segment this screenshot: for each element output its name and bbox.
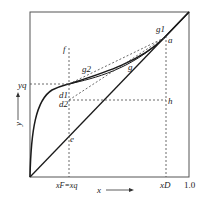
label-g2: g2	[82, 64, 92, 74]
y-arrowhead-icon	[16, 92, 20, 97]
label-e: e	[70, 134, 74, 144]
label-g1: g1	[156, 24, 165, 34]
label-1-0: 1.0	[184, 180, 196, 190]
label-a: a	[168, 35, 173, 45]
label-d2: d2	[59, 99, 69, 109]
y-axis-label: y	[13, 122, 23, 127]
mccabe-thiele-diagram: f g2 g g1 a d1 d2 h e yq xF=xq xD 1.0 x …	[0, 0, 209, 207]
x-arrowhead-icon	[129, 188, 134, 192]
label-f: f	[63, 44, 67, 54]
label-xf-xq: xF=xq	[55, 181, 77, 190]
a-d1-dashed	[69, 38, 164, 84]
label-g: g	[128, 62, 133, 72]
x-axis-label: x	[96, 185, 101, 195]
label-yq: yq	[17, 80, 27, 90]
label-xd: xD	[159, 180, 171, 190]
label-h: h	[168, 96, 173, 106]
